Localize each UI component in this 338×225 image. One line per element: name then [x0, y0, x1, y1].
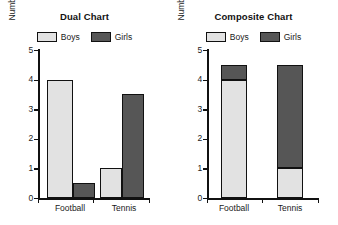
legend-composite: Boys Girls [169, 32, 338, 42]
legend-label-girls: Girls [115, 33, 132, 42]
y-tick-2: 2 [34, 139, 39, 140]
y-tick-2: 2 [203, 139, 208, 140]
y-tick-5: 5 [34, 50, 39, 51]
legend-entry-boys: Boys [206, 32, 249, 42]
legend-dual: Boys Girls [0, 32, 169, 42]
bar-football-girls [73, 183, 95, 198]
x-category-label-football: Football [42, 203, 98, 213]
legend-entry-girls: Girls [260, 32, 301, 42]
figure-root: Dual Chart Boys Girls Number of Pupils 0… [0, 0, 338, 225]
bar-tennis-girls [122, 94, 144, 198]
legend-label-girls: Girls [284, 33, 301, 42]
chart-panel-dual: Dual Chart Boys Girls Number of Pupils 0… [0, 0, 169, 225]
chart-title-dual: Dual Chart [0, 11, 169, 22]
x-tick-start [38, 199, 39, 204]
y-tick-3: 3 [203, 109, 208, 110]
legend-swatch-boys-icon [206, 32, 226, 42]
y-tick-1: 1 [34, 168, 39, 169]
y-axis-label-dual: Number of Pupils [6, 0, 18, 62]
stack-football-boys [221, 80, 247, 198]
plot-area-dual: 0 1 2 3 4 5 Football Tennis [38, 50, 150, 198]
y-tick-4: 4 [203, 80, 208, 81]
legend-label-boys: Boys [230, 33, 249, 42]
chart-panel-composite: Composite Chart Boys Girls Number of Pup… [169, 0, 338, 225]
stack-tennis-girls [277, 65, 303, 169]
legend-swatch-girls-icon [91, 32, 111, 42]
stack-tennis-boys [277, 168, 303, 198]
legend-label-boys: Boys [61, 33, 80, 42]
x-category-label-tennis: Tennis [96, 203, 152, 213]
y-axis-line-dual [38, 49, 40, 199]
legend-swatch-boys-icon [37, 32, 57, 42]
plot-area-composite: 0 1 2 3 4 5 Football Tennis [207, 50, 319, 198]
bar-tennis-boys [100, 168, 122, 198]
legend-swatch-girls-icon [260, 32, 280, 42]
y-tick-4: 4 [34, 80, 39, 81]
legend-entry-girls: Girls [91, 32, 132, 42]
y-tick-1: 1 [203, 168, 208, 169]
y-axis-label-composite: Number of Pupils [175, 0, 187, 62]
x-category-label-football: Football [206, 203, 262, 213]
bar-football-boys [47, 80, 73, 198]
y-tick-3: 3 [34, 109, 39, 110]
y-tick-5: 5 [203, 50, 208, 51]
stack-football-girls [221, 65, 247, 80]
legend-entry-boys: Boys [37, 32, 80, 42]
chart-title-composite: Composite Chart [169, 11, 338, 22]
y-axis-line-composite [207, 49, 209, 199]
x-category-label-tennis: Tennis [262, 203, 318, 213]
